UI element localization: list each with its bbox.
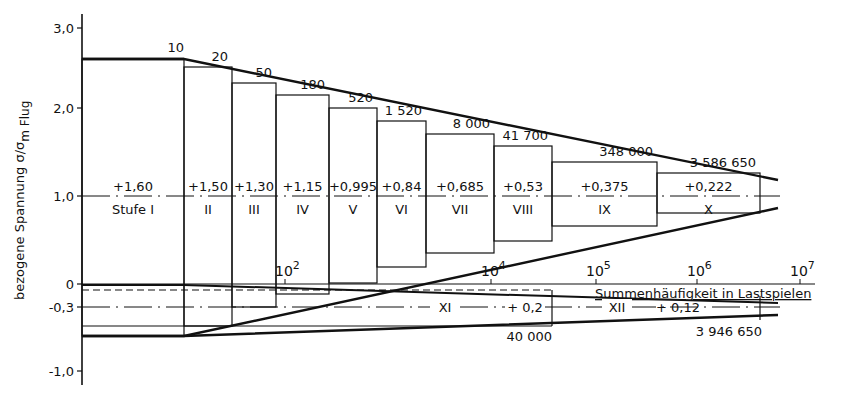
ground-amp-xii: + 0,12 [656,300,700,315]
step-amplitude: +0,222 [684,179,732,194]
step-amplitude: +1,50 [188,179,228,194]
step-stage: X [704,202,713,217]
step-stage: VII [452,202,469,217]
x-tick-label: 105 [586,259,611,279]
x-tick-label: 107 [790,259,815,279]
y-tick-label: 2,0 [53,101,74,116]
step-amplitude: +0,685 [436,179,484,194]
ground-stage-xii: XII [609,300,626,315]
upper-envelope-line [82,59,778,180]
step-amplitude: +0,53 [503,179,543,194]
y-tick-label: 0 [66,277,74,292]
step-amplitude: +1,60 [113,179,153,194]
ground-count-2: 3 946 650 [696,324,762,339]
x-tick-label: 106 [687,259,712,279]
cumulative-cycles-label: 20 [211,49,228,64]
step-stage: VI [395,202,408,217]
step-amplitude: +0,84 [382,179,422,194]
ground-amp-xi: + 0,2 [507,300,543,315]
step-amplitude: +0,995 [329,179,377,194]
step-amplitude: +1,30 [234,179,274,194]
load-step-block [232,83,276,307]
cumulative-cycles-label: 41 700 [503,128,549,143]
ground-count-1: 40 000 [507,329,553,344]
step-amplitude: +1,15 [283,179,323,194]
ground-stage-xi: XI [439,300,452,315]
cumulative-cycles-label: 10 [167,40,184,55]
y-tick-label: 1,0 [53,189,74,204]
cumulative-cycles-label: 50 [255,65,272,80]
load-step-block [377,121,426,267]
y-axis-label: bezogene Spannung σ/σm Flug [12,101,32,300]
x-tick-label: 102 [275,259,300,279]
step-amplitude: +0,375 [580,179,628,194]
step-stage: VIII [513,202,533,217]
y-tick-label: 3,0 [53,21,74,36]
step-stage: Stufe I [112,202,154,217]
lower-envelope-line [82,208,778,336]
load-spectrum-chart: 3,02,01,00-0,3-1,0bezogene Spannung σ/σm… [0,0,853,394]
load-step-block [82,59,184,336]
chart-content: 3,02,01,00-0,3-1,0bezogene Spannung σ/σm… [12,14,815,385]
y-tick-label: -1,0 [49,364,74,379]
y-tick-label: -0,3 [49,300,74,315]
step-stage: IX [598,202,611,217]
step-stage: III [248,202,260,217]
step-stage: IV [296,202,309,217]
step-stage: II [204,202,212,217]
step-stage: V [349,202,358,217]
